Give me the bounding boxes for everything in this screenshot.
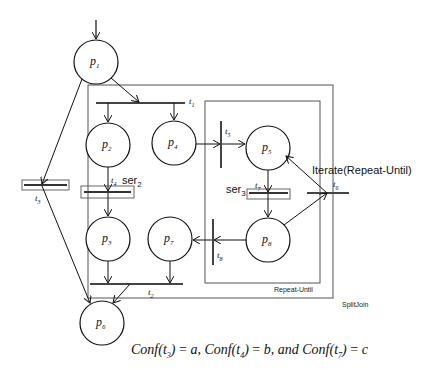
label-t5: t5 (225, 126, 231, 138)
petri-net-diagram (0, 0, 424, 370)
label-p6: p6 (96, 315, 106, 331)
label-t7: t7 (255, 180, 261, 192)
label-p8: p8 (262, 232, 272, 248)
label-p3: p3 (102, 231, 112, 247)
label-t4: t4 (111, 175, 117, 187)
annotation-ser3: ser3 (226, 183, 246, 198)
repeat-until-label: Repeat-Until (274, 286, 313, 293)
label-t6: t6 (333, 179, 339, 191)
label-t2: t2 (148, 287, 154, 299)
conf-formula: Conf(t3) = a, Conf(t4) = b, and Conf(t7)… (131, 342, 368, 360)
annotation-iterate: Iterate(Repeat-Until) (312, 164, 412, 176)
annotation-ser2: ser2 (122, 174, 142, 189)
label-p7: p7 (164, 231, 174, 247)
label-p2: p2 (102, 137, 112, 153)
label-p4: p4 (168, 135, 178, 151)
label-t3: t3 (35, 193, 41, 205)
label-t8: t8 (217, 250, 223, 262)
splitjoin-label: SplitJoin (342, 301, 368, 308)
label-t1: t1 (189, 96, 195, 108)
label-p5: p5 (262, 140, 272, 156)
label-p1: p1 (90, 54, 100, 70)
